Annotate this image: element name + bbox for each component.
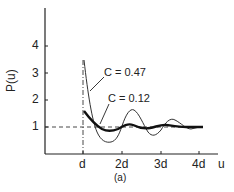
annotation-pointer-c012 <box>100 104 109 124</box>
chart <box>0 0 234 192</box>
annotation-pointer-c047 <box>90 77 104 91</box>
